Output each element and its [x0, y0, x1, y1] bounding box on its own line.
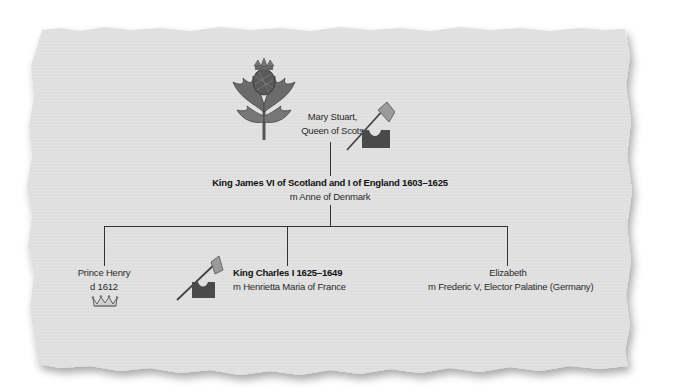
- connector-elizabeth: [507, 226, 508, 266]
- torn-paper-background: [20, 26, 635, 391]
- elizabeth-spouse: m Frederic V, Elector Palatine (Germany): [428, 280, 588, 294]
- james-spouse: m Anne of Denmark: [210, 190, 450, 204]
- paper-shape: [20, 26, 650, 391]
- charles-spouse: m Henrietta Maria of France: [233, 280, 373, 294]
- crown-icon: [91, 294, 119, 308]
- james-name: King James VI of Scotland and I of Engla…: [210, 176, 450, 190]
- executioner-axe-icon: [345, 100, 395, 152]
- node-james: King James VI of Scotland and I of Engla…: [210, 176, 450, 204]
- connector-james-down: [330, 205, 331, 227]
- connector-charles: [287, 226, 288, 266]
- node-charles: King Charles I 1625–1649 m Henrietta Mar…: [233, 266, 373, 294]
- node-prince-henry: Prince Henry d 1612: [74, 266, 134, 294]
- connector-children-bar: [104, 226, 507, 227]
- connector-mary-james: [330, 142, 331, 176]
- elizabeth-name: Elizabeth: [428, 266, 588, 280]
- node-elizabeth: Elizabeth m Frederic V, Elector Palatine…: [428, 266, 588, 294]
- connector-henry: [104, 226, 105, 266]
- henry-death: d 1612: [74, 280, 134, 294]
- executioner-axe-icon: [175, 256, 225, 302]
- henry-name: Prince Henry: [74, 266, 134, 280]
- thistle-icon: [231, 52, 297, 144]
- charles-name: King Charles I 1625–1649: [233, 266, 373, 280]
